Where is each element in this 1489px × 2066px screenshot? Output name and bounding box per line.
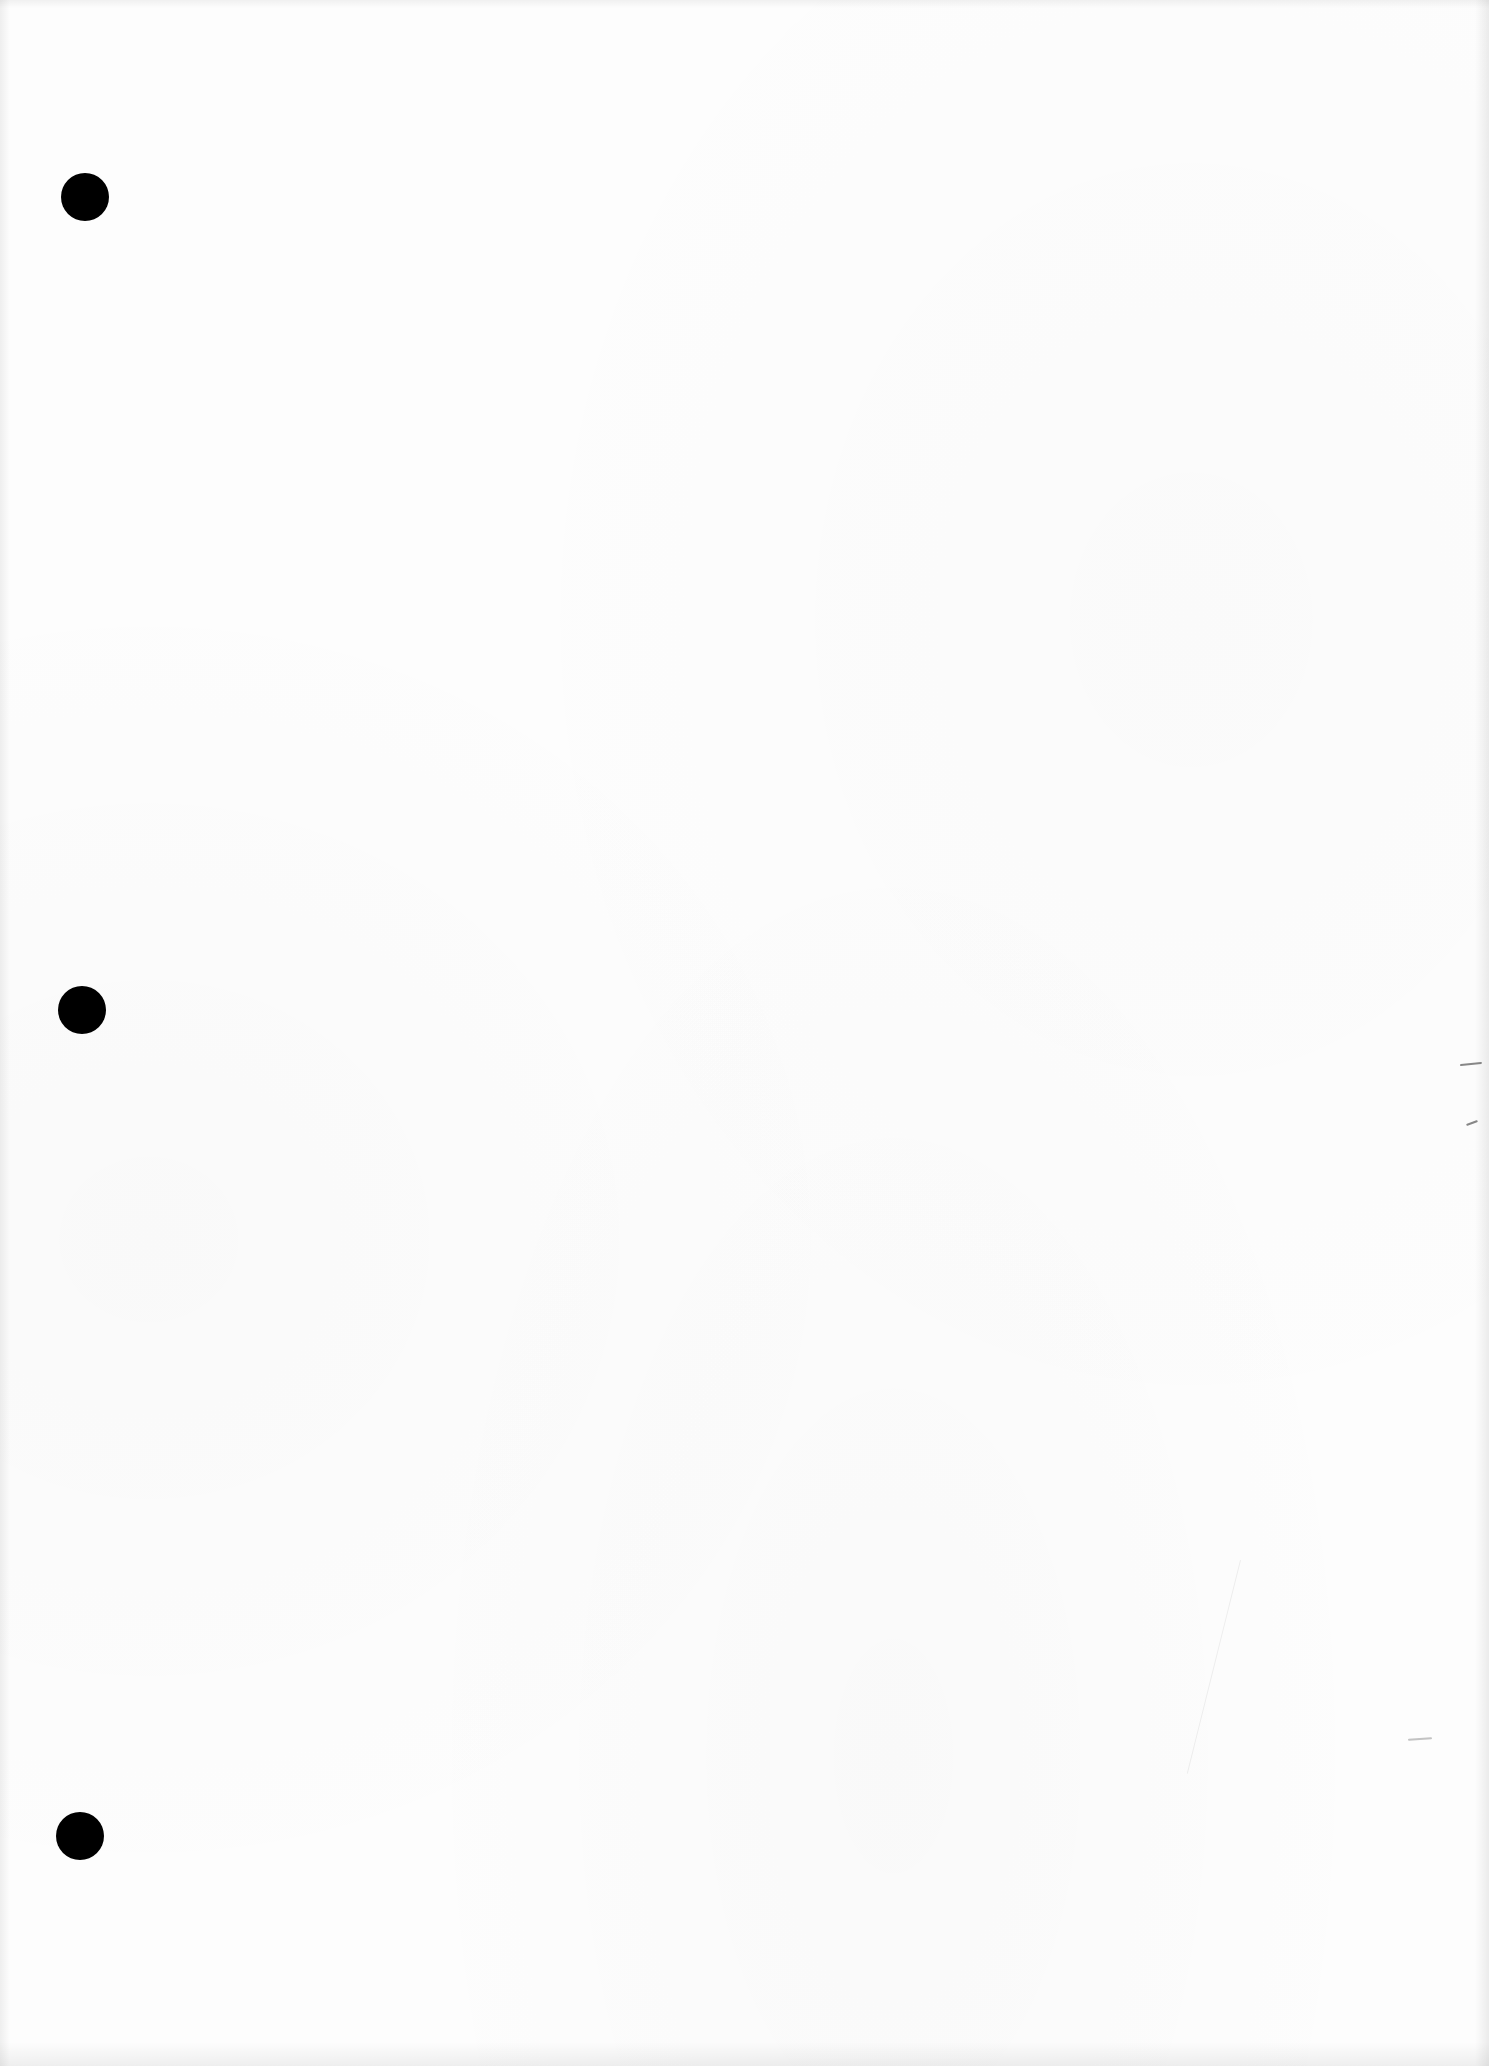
page-edge-shadow-bottom — [0, 2042, 1489, 2066]
punch-hole-bottom — [56, 1812, 104, 1860]
page-edge-shadow-right — [1475, 0, 1489, 2066]
scan-artifact-mark — [1408, 1737, 1432, 1741]
scan-artifact-mark — [1466, 1120, 1478, 1126]
page-edge-shadow-left — [0, 0, 10, 2066]
punch-hole-top — [61, 173, 109, 221]
page-edge-shadow-top — [0, 0, 1489, 8]
punch-hole-middle — [58, 986, 106, 1034]
scan-artifact-mark — [1460, 1062, 1482, 1066]
paper-crease — [1187, 1560, 1241, 1774]
scanned-blank-page — [0, 0, 1489, 2066]
